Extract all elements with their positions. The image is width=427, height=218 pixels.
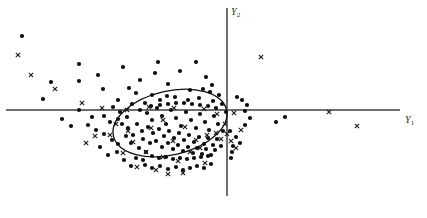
data-point-dot bbox=[197, 96, 201, 100]
data-point-dot bbox=[150, 118, 154, 122]
data-point-dot bbox=[130, 102, 134, 106]
data-point-dot bbox=[160, 114, 164, 118]
data-point-dot bbox=[186, 98, 190, 102]
data-point-dot bbox=[106, 153, 110, 157]
data-point-dot bbox=[124, 134, 128, 138]
data-point-dot bbox=[155, 106, 159, 110]
data-point-dot bbox=[20, 34, 24, 38]
data-point-dot bbox=[98, 145, 102, 149]
data-point-cross bbox=[108, 133, 112, 137]
data-point-dot bbox=[209, 162, 213, 166]
data-point-dot bbox=[235, 95, 239, 99]
data-point-cross bbox=[229, 139, 233, 143]
data-point-dot bbox=[240, 98, 244, 102]
data-point-dot bbox=[171, 157, 175, 161]
data-point-dot bbox=[120, 122, 124, 126]
y1-axis-label-text: Y bbox=[405, 114, 411, 125]
data-point-dot bbox=[157, 127, 161, 131]
data-point-dot bbox=[215, 137, 219, 141]
data-point-dot bbox=[166, 167, 170, 171]
y2-axis-label-subscript: 2 bbox=[237, 11, 241, 19]
data-point-dot bbox=[188, 88, 192, 92]
data-point-dot bbox=[77, 79, 81, 83]
data-point-dot bbox=[210, 83, 214, 87]
data-point-dot bbox=[283, 115, 287, 119]
data-point-dot bbox=[166, 82, 170, 86]
data-point-dot bbox=[166, 102, 170, 106]
data-point-dot bbox=[102, 132, 106, 136]
data-point-dot bbox=[118, 110, 122, 114]
scatter-plot-canvas bbox=[0, 0, 427, 218]
data-point-dot bbox=[189, 118, 193, 122]
data-point-cross bbox=[161, 118, 165, 122]
data-point-dot bbox=[49, 80, 53, 84]
data-point-dot bbox=[202, 142, 206, 146]
data-point-dot bbox=[204, 75, 208, 79]
data-point-dot bbox=[194, 126, 198, 130]
data-point-dot bbox=[148, 141, 152, 145]
data-point-dot bbox=[176, 143, 180, 147]
data-point-dot bbox=[177, 131, 181, 135]
data-point-dot bbox=[173, 95, 177, 99]
data-point-cross bbox=[121, 151, 125, 155]
data-point-dot bbox=[131, 133, 135, 137]
data-point-cross bbox=[183, 125, 187, 129]
data-point-cross bbox=[166, 172, 170, 176]
data-point-dot bbox=[219, 144, 223, 148]
data-point-dot bbox=[182, 138, 186, 142]
y2-axis-label: Y2 bbox=[231, 6, 240, 17]
data-point-dot bbox=[116, 142, 120, 146]
data-point-cross bbox=[53, 87, 57, 91]
data-point-dot bbox=[229, 156, 233, 160]
data-point-dot bbox=[135, 122, 139, 126]
data-point-dot bbox=[178, 69, 182, 73]
data-point-dot bbox=[150, 93, 154, 97]
data-point-dot bbox=[77, 62, 81, 66]
data-point-dot bbox=[141, 158, 145, 162]
data-point-cross bbox=[84, 141, 88, 145]
data-point-dot bbox=[125, 115, 129, 119]
data-point-dot bbox=[206, 154, 210, 158]
data-point-dot bbox=[230, 150, 234, 154]
data-point-dot bbox=[221, 129, 225, 133]
data-point-dot bbox=[41, 97, 45, 101]
data-point-dot bbox=[156, 60, 160, 64]
data-point-cross bbox=[176, 159, 180, 163]
data-point-dot bbox=[207, 128, 211, 132]
data-point-dot bbox=[134, 91, 138, 95]
data-point-dot bbox=[217, 93, 221, 97]
data-point-cross bbox=[219, 137, 223, 141]
data-point-dot bbox=[174, 165, 178, 169]
data-point-dot bbox=[174, 101, 178, 105]
data-point-dot bbox=[186, 145, 190, 149]
data-point-dot bbox=[174, 116, 178, 120]
data-point-dot bbox=[143, 163, 147, 167]
data-point-dot bbox=[138, 108, 142, 112]
data-point-dot bbox=[96, 73, 100, 77]
data-point-cross bbox=[234, 146, 238, 150]
data-point-cross bbox=[232, 111, 236, 115]
data-point-dot bbox=[129, 164, 133, 168]
data-point-dot bbox=[165, 94, 169, 98]
data-point-dot bbox=[184, 110, 188, 114]
data-point-dot bbox=[141, 137, 145, 141]
data-point-dot bbox=[248, 116, 252, 120]
data-point-dot bbox=[208, 90, 212, 94]
data-point-dot bbox=[158, 98, 162, 102]
data-point-dot bbox=[145, 111, 149, 115]
data-point-cross bbox=[93, 134, 97, 138]
data-point-dot bbox=[154, 139, 158, 143]
data-point-dot bbox=[201, 87, 205, 91]
y1-axis-label-subscript: 1 bbox=[411, 119, 415, 127]
data-point-dot bbox=[187, 133, 191, 137]
data-point-dot bbox=[115, 150, 119, 154]
data-point-dot bbox=[90, 115, 94, 119]
data-point-dot bbox=[211, 143, 215, 147]
data-point-dot bbox=[111, 105, 115, 109]
data-point-dot bbox=[110, 138, 114, 142]
data-point-dot bbox=[137, 146, 141, 150]
data-point-dot bbox=[121, 65, 125, 69]
scatter-plot-figure: Y2 Y1 bbox=[0, 0, 427, 218]
data-point-dot bbox=[108, 120, 112, 124]
data-point-dot bbox=[243, 109, 247, 113]
